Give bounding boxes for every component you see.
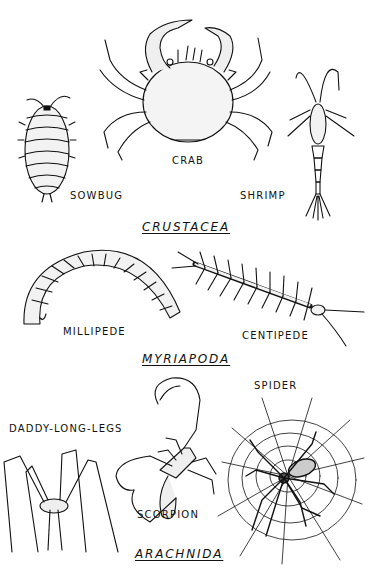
arthropod-diagram: SOWBUG CRAB SHRIMP CRUSTACEA MILLIPEDE C… [0, 0, 377, 578]
crab-illustration [100, 20, 272, 160]
group-title-arachnida: ARACHNIDA [135, 547, 223, 561]
label-daddy-long-legs: DADDY-LONG-LEGS [9, 423, 123, 434]
spider-web-illustration [218, 398, 364, 564]
label-spider: SPIDER [254, 380, 298, 391]
group-title-crustacea: CRUSTACEA [142, 220, 230, 234]
millipede-illustration [24, 250, 180, 324]
shrimp-illustration [288, 69, 354, 220]
label-millipede: MILLIPEDE [63, 326, 126, 337]
label-sowbug: SOWBUG [70, 190, 123, 201]
label-centipede: CENTIPEDE [242, 330, 309, 341]
sowbug-illustration [18, 96, 76, 202]
label-shrimp: SHRIMP [240, 190, 286, 201]
label-crab: CRAB [172, 155, 204, 166]
daddy-long-legs-illustration [4, 450, 118, 552]
spider-illustration [246, 432, 334, 536]
scorpion-illustration [116, 378, 216, 522]
group-title-myriapoda: MYRIAPODA [142, 352, 230, 366]
illustrations [0, 0, 377, 578]
label-scorpion: SCORPION [137, 509, 199, 520]
